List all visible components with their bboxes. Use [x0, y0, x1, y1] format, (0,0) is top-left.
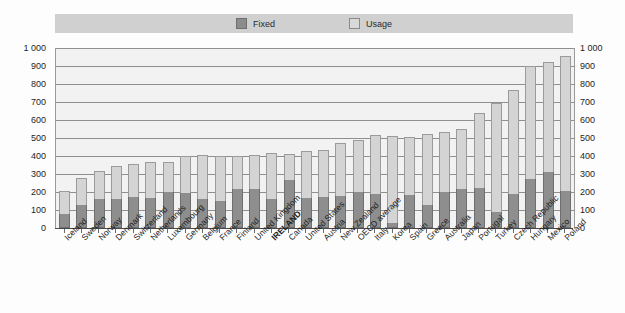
y-axis-tick-label-left: 0: [2, 224, 46, 233]
y-axis-tick-label-left: 200: [2, 188, 46, 197]
bar-segment-usage: [76, 178, 87, 205]
bar-segment-usage: [232, 156, 243, 189]
bar-segment-usage: [111, 166, 122, 199]
y-axis-tick-label-right: 400: [580, 152, 595, 161]
bar-segment-usage: [128, 164, 139, 197]
y-axis-tick-label-left: 700: [2, 98, 46, 107]
bar-stack: [404, 137, 415, 228]
bar-segment-usage: [215, 156, 226, 201]
y-axis-tick-label-left: 900: [2, 62, 46, 71]
bar-segment-usage: [59, 191, 70, 214]
bar-segment-usage: [474, 113, 485, 188]
bar-stack: [59, 191, 70, 228]
bar-stack: [422, 134, 433, 228]
bar-segment-usage: [145, 162, 156, 198]
bar-segment-usage: [508, 90, 519, 194]
bar-segment-usage: [335, 143, 346, 195]
bar-segment-usage: [180, 156, 191, 193]
bar-series-container: [56, 48, 574, 228]
y-axis-tick-label-right: 800: [580, 80, 595, 89]
bar-segment-usage: [318, 150, 329, 198]
bar-stack: [474, 113, 485, 228]
bar-segment-usage: [197, 155, 208, 199]
plot-area: [55, 48, 575, 228]
bar-segment-usage: [284, 154, 295, 180]
y-axis-tick-label-right: 900: [580, 62, 595, 71]
y-axis-tick-label-right: 1 000: [580, 44, 603, 53]
bar-segment-fixed: [59, 214, 70, 228]
bar-stack: [525, 66, 536, 228]
bar-segment-usage: [439, 132, 450, 192]
bar-segment-usage: [301, 151, 312, 199]
chart-figure: Fixed Usage 0100200300400500600700800900…: [0, 0, 625, 313]
bar-segment-usage: [353, 140, 364, 192]
bar-segment-usage: [456, 129, 467, 189]
bar-segment-usage: [163, 162, 174, 192]
legend-label-fixed: Fixed: [253, 19, 275, 29]
bar-segment-usage: [94, 171, 105, 199]
y-axis-tick-label-left: 1 000: [2, 44, 46, 53]
bar-segment-usage: [422, 134, 433, 204]
bar-segment-usage: [543, 62, 554, 172]
y-axis-tick-label-left: 300: [2, 170, 46, 179]
bar-segment-usage: [525, 66, 536, 179]
bar-segment-usage: [266, 153, 277, 199]
bar-segment-usage: [404, 137, 415, 195]
legend-item-fixed: Fixed: [236, 18, 275, 29]
y-axis-tick-label-right: 700: [580, 98, 595, 107]
bar-segment-usage: [560, 56, 571, 191]
y-axis-tick-label-left: 800: [2, 80, 46, 89]
legend-item-usage: Usage: [349, 18, 392, 29]
square-swatch-icon: [349, 18, 360, 29]
y-axis-tick-label-right: 500: [580, 134, 595, 143]
bar-stack: [560, 56, 571, 228]
bar-segment-usage: [491, 103, 502, 212]
y-axis-tick-label-right: 100: [580, 206, 595, 215]
y-axis-tick-label-right: 200: [580, 188, 595, 197]
y-axis-tick-label-left: 400: [2, 152, 46, 161]
y-axis-tick-label-left: 600: [2, 116, 46, 125]
y-axis-tick-label-right: 600: [580, 116, 595, 125]
bar-segment-usage: [370, 135, 381, 194]
bar-stack: [508, 90, 519, 228]
legend-label-usage: Usage: [366, 19, 392, 29]
bar-stack: [439, 132, 450, 228]
square-swatch-icon: [236, 18, 247, 29]
bar-segment-usage: [249, 155, 260, 189]
y-axis-tick-label-right: 300: [580, 170, 595, 179]
y-axis-tick-label-left: 100: [2, 206, 46, 215]
bar-stack: [491, 103, 502, 228]
y-axis-tick-label-left: 500: [2, 134, 46, 143]
chart-legend: Fixed Usage: [55, 14, 573, 33]
